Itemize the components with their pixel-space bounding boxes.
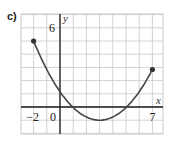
svg-text:7: 7 [149, 110, 155, 124]
svg-text:−2: −2 [26, 110, 39, 124]
svg-text:0: 0 [50, 110, 56, 124]
plot-area [21, 14, 163, 134]
x-axis-label: x [155, 94, 161, 106]
y-axis-label: y [62, 12, 68, 24]
svg-text:6: 6 [49, 21, 55, 35]
parabola-graph: x y −2076 [0, 0, 171, 143]
